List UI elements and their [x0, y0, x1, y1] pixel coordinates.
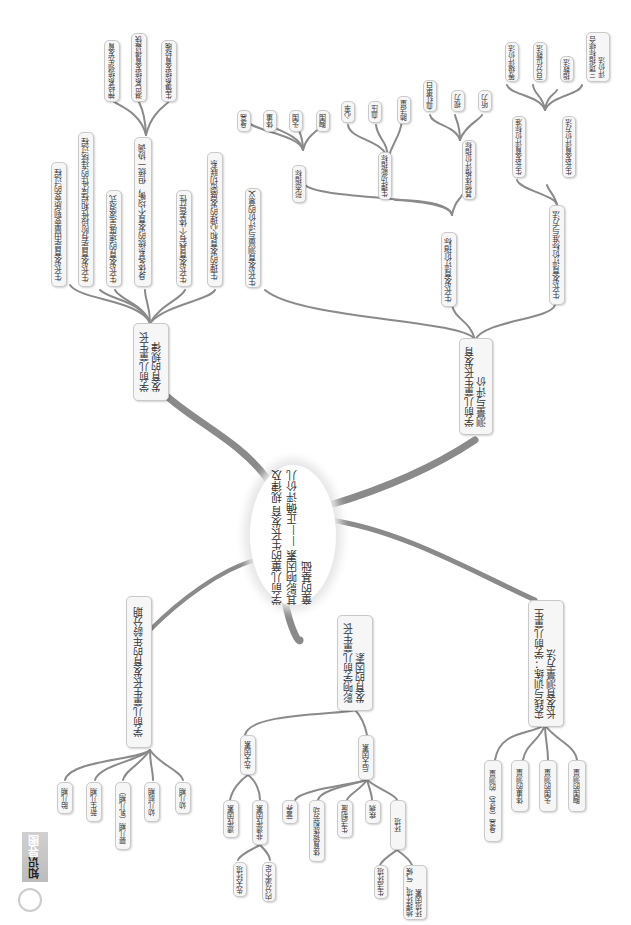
nongenetic-item[interactable]: 内分泌不足 — [262, 862, 276, 902]
system-item[interactable]: 神经系统领先发育 — [104, 40, 120, 102]
period-item[interactable]: 幼儿前期 — [144, 782, 160, 822]
env-item[interactable]: 地理环境、气候 环境因素 — [403, 865, 427, 920]
nongenetic-node[interactable]: 非遗传因素 — [252, 800, 268, 845]
system-item[interactable]: 淋巴系统发育得最快 — [131, 33, 147, 102]
innate-node[interactable]: 先天因素 — [240, 735, 256, 775]
acquired-item[interactable]: 生活制度 — [337, 800, 353, 838]
morph-node[interactable]: 形态指标 — [292, 165, 306, 203]
period-item[interactable]: 婴儿期（乳儿期） — [115, 782, 131, 850]
indicators-node[interactable]: 生长发育评价指标 — [441, 232, 457, 307]
banner-label-light: 导图 — [28, 835, 41, 857]
banner-label-dark: 知识 — [28, 857, 41, 879]
branch-laws[interactable]: 学前儿童生长 发育的规律 — [133, 323, 169, 401]
knowledge-map-banner: 知识导图 — [22, 832, 48, 882]
system-item[interactable]: 生殖系统发育较晚 — [161, 40, 177, 102]
morph-item[interactable]: 胸围 — [316, 110, 330, 132]
period-item[interactable]: 新生儿期 — [86, 782, 102, 822]
laws-item[interactable]: 生理的发育和心理的发展密切联系 — [207, 152, 223, 287]
branch-practice[interactable]: 实践与训练：学前儿童生 长发育测量方法 — [528, 600, 564, 727]
period-item[interactable]: 胎儿期 — [57, 782, 73, 814]
acquired-item[interactable]: 营养 — [282, 800, 298, 824]
other-item[interactable]: 血红蛋白 — [423, 80, 437, 112]
genetic-node[interactable]: 遗传因素 — [223, 800, 239, 838]
method-item[interactable]: 百分位数法 — [533, 42, 547, 82]
methods-node[interactable]: 生长发育评价标准与方法 — [549, 205, 565, 305]
laws-item[interactable]: 生长发育具有个体差异性 — [176, 190, 192, 287]
env-item[interactable]: 生活环境 — [374, 865, 388, 899]
period-item[interactable]: 幼儿期 — [175, 782, 191, 814]
central-topic[interactable]: 学前儿童的生长发育 规律及其影响因素 ——正确评价儿童的基础 — [250, 465, 336, 605]
morph-item[interactable]: 体重 — [263, 110, 277, 132]
morph-item[interactable]: 头围 — [289, 110, 303, 132]
acquired-node[interactable]: 后天因素 — [358, 735, 374, 780]
method-item[interactable]: 三项指标综合 评价法 — [586, 32, 610, 82]
func-item[interactable]: 肺活量 — [397, 96, 411, 124]
laws-item-systems[interactable]: 身体各系统的发育不均衡，但统一协调 — [134, 137, 152, 287]
laws-item[interactable]: 生长发育是由量变到质变的过程 — [51, 162, 67, 287]
func-item[interactable]: 心率 — [341, 101, 355, 123]
other-item[interactable]: 听力 — [478, 90, 492, 112]
acquired-item[interactable]: 体育锻炼和劳动 — [309, 800, 325, 862]
method-item[interactable]: 等级评价法 — [505, 42, 519, 82]
central-topic-label: 学前儿童的生长发育 规律及其影响因素 ——正确评价儿童的基础 — [271, 465, 316, 605]
lightbulb-icon — [18, 888, 42, 912]
func-node[interactable]: 生理功能指标 — [378, 152, 392, 200]
func-item[interactable]: 血压 — [368, 101, 382, 123]
practice-item[interactable]: 体重的测量 — [511, 760, 529, 812]
practice-item[interactable]: 身高（身长）的测量 — [484, 760, 502, 842]
branch-measure[interactable]: 学前儿童生长发育 测量与评价 — [459, 338, 493, 435]
other-item[interactable]: 视力 — [451, 90, 465, 112]
branch-periods[interactable]: 学前儿童生长发育的年龄分期 — [126, 596, 152, 748]
other-node[interactable]: 其他体格评价指标 — [462, 140, 476, 200]
practice-item[interactable]: 胸围的测量 — [568, 760, 586, 812]
branch-factors[interactable]: 影响学前儿童生长 发育的因素 — [337, 615, 373, 711]
practice-item[interactable]: 头围的测量 — [539, 760, 557, 812]
laws-item[interactable]: 生长发育是有阶段性和程序性的连续过程 — [78, 132, 94, 287]
acquired-item[interactable]: 疾病 — [365, 800, 381, 824]
standard-node[interactable]: 生长发育评价标准 — [512, 116, 526, 178]
environment-node[interactable]: 环境 — [390, 800, 406, 850]
nongenetic-item[interactable]: 先天环境 — [233, 862, 247, 897]
morph-item[interactable]: 身高 — [237, 110, 251, 132]
measure-significance[interactable]: 生长发育测量与评价的意义 — [245, 188, 261, 288]
laws-item[interactable]: 生长发育的速度呈波浪式 — [106, 190, 122, 287]
method-item[interactable]: 指数法 — [560, 56, 574, 82]
method-node[interactable]: 生长发育评价方法 — [562, 116, 576, 178]
